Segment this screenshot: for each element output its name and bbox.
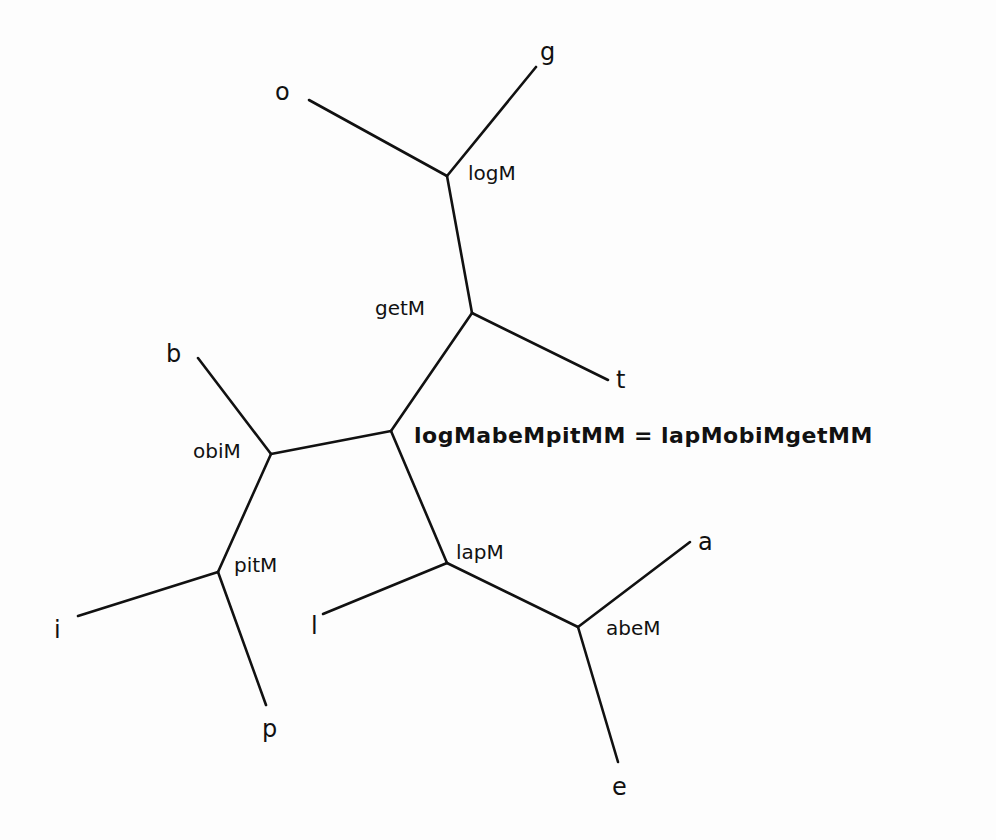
edge-abeM-e [578, 627, 618, 762]
node-label-pitM: pitM [234, 555, 277, 575]
edge-pitM-i [78, 572, 218, 616]
node-label-logM: logM [468, 163, 516, 183]
edge-getM-root [391, 313, 472, 431]
edge-o-logM [309, 100, 447, 176]
edge-lapM-abeM [447, 563, 578, 627]
node-label-lapM: lapM [456, 542, 504, 562]
leaf-label-p: p [262, 717, 277, 741]
leaf-label-l: l [311, 614, 318, 638]
node-label-obiM: obiM [193, 441, 241, 461]
leaf-label-o: o [275, 80, 290, 104]
edge-abeM-a [578, 542, 690, 627]
leaf-label-g: g [540, 40, 555, 64]
edge-g-logM [447, 67, 536, 176]
leaf-label-t: t [616, 368, 625, 392]
leaf-label-b: b [166, 342, 181, 366]
leaf-label-a: a [698, 530, 713, 554]
edge-root-obiM [271, 431, 391, 454]
edge-pitM-p [218, 572, 266, 705]
leaf-label-i: i [54, 618, 61, 642]
root-equation-label: logMabeMpitMM = lapMobiMgetMM [414, 425, 873, 447]
leaf-label-e: e [612, 775, 627, 799]
edge-root-lapM [391, 431, 447, 563]
node-label-getM: getM [375, 298, 425, 318]
node-label-abeM: abeM [606, 618, 661, 638]
tree-edges [0, 0, 996, 840]
tree-diagram: o g t b i p l a e logM getM obiM pitM la… [0, 0, 996, 840]
edge-lapM-l [323, 563, 447, 614]
edge-logM-getM [447, 176, 472, 313]
edge-getM-t [472, 313, 608, 380]
